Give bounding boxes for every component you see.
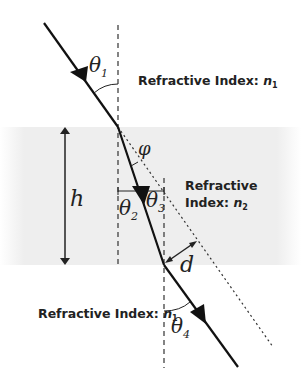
- displacement-label: d: [180, 252, 194, 277]
- refraction-diagram: θ1 φ θ2 θ3 θ4 h d Refractive Index: n1 R…: [0, 0, 301, 389]
- theta1-arc: [94, 84, 118, 93]
- top-medium-label: Refractive Index: n1: [138, 73, 278, 90]
- exit-arrow-icon: [190, 304, 206, 324]
- slab-medium-label-line1: Refractive: [185, 178, 257, 193]
- theta1-label: θ1: [89, 53, 108, 80]
- phi-label: φ: [138, 138, 151, 159]
- incident-arrow-icon: [70, 66, 88, 82]
- bottom-medium-label: Refractive Index: n1: [38, 306, 178, 323]
- diagram-canvas: θ1 φ θ2 θ3 θ4 h d Refractive Index: n1 R…: [0, 0, 301, 389]
- height-label: h: [70, 186, 84, 211]
- slab-medium-label-line2: Index: n2: [185, 195, 248, 212]
